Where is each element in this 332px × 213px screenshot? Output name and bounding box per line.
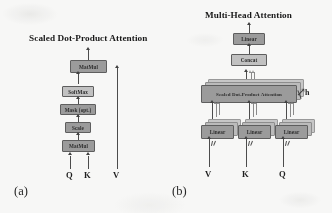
connector-v-arrowhead <box>115 65 119 68</box>
panel-b-output-arrowhead <box>247 22 251 25</box>
connector-linearv-head3-arrowhead <box>217 101 219 104</box>
connector-head3-arrowhead <box>252 70 254 73</box>
panel-b-title: Multi-Head Attention <box>205 10 292 20</box>
connector-linearv-head1 <box>212 103 213 119</box>
connector-linearq-head2 <box>290 103 291 117</box>
connector-linearv-head2 <box>216 103 217 117</box>
connector-k-input <box>88 156 89 169</box>
node-matmul-bottom: MatMul <box>62 140 95 152</box>
connector-linearv-head3 <box>219 103 220 115</box>
connector-linearq-head3-arrowhead <box>291 101 293 104</box>
connector-k-trunk <box>246 139 247 167</box>
connector-linearq-head1-arrowhead <box>284 100 288 103</box>
connector-head1-arrowhead <box>244 69 248 72</box>
connector-linearv-head1-arrowhead <box>210 100 214 103</box>
scan-artifact-overlay <box>0 0 332 213</box>
connector-lineark-head2 <box>253 103 254 117</box>
split-k-right <box>250 141 253 146</box>
heads-count-label: h <box>305 88 309 97</box>
connector-linearv-head2-arrowhead <box>214 101 216 104</box>
connector-scale-to-mask-arrowhead <box>76 114 80 117</box>
connector-lineark-head1-arrowhead <box>247 100 251 103</box>
connector-mask-to-softmax-arrowhead <box>76 96 80 99</box>
input-label-v: V <box>113 170 119 180</box>
connector-q-input <box>70 156 71 169</box>
figure-canvas: Scaled Dot-Product Attention MatMul Soft… <box>0 0 332 213</box>
connector-concat-to-linear-arrowhead <box>247 43 251 46</box>
connector-v-input <box>117 68 118 169</box>
split-v-right <box>213 141 216 146</box>
connector-q-arrowhead <box>68 152 72 155</box>
connector-lineark-head3 <box>256 103 257 115</box>
input-label-q: Q <box>279 169 286 179</box>
connector-k-arrowhead <box>86 152 90 155</box>
connector-q-trunk-arrowhead <box>281 136 285 139</box>
connector-softmax-to-matmul-arrowhead <box>76 71 80 74</box>
input-label-q: Q <box>66 170 73 180</box>
panel-a-caption: (a) <box>14 184 28 199</box>
connector-v-trunk <box>209 139 210 167</box>
panel-a-output-arrowhead <box>86 47 90 50</box>
input-label-k: K <box>84 170 91 180</box>
split-q-right <box>287 141 290 146</box>
connector-matmul-to-scale-arrowhead <box>76 132 80 135</box>
connector-linearq-head1 <box>286 103 287 119</box>
connector-v-trunk-arrowhead <box>207 136 211 139</box>
connector-concat-to-linear <box>249 45 250 54</box>
connector-lineark-head3-arrowhead <box>254 101 256 104</box>
panel-a-output-line <box>88 50 89 60</box>
node-concat: Concat <box>231 54 267 66</box>
input-label-k: K <box>242 169 249 179</box>
connector-head2-arrowhead <box>249 70 251 73</box>
connector-lineark-head1 <box>249 103 250 119</box>
connector-linearq-head2-arrowhead <box>288 101 290 104</box>
connector-lineark-head2-arrowhead <box>251 101 253 104</box>
input-label-v: V <box>205 169 211 179</box>
panel-b-caption: (b) <box>172 184 187 199</box>
connector-k-trunk-arrowhead <box>244 136 248 139</box>
connector-linearq-head3 <box>293 103 294 115</box>
connector-q-trunk <box>283 139 284 167</box>
panel-a-title: Scaled Dot-Product Attention <box>29 33 148 43</box>
connector-softmax-to-matmul <box>78 73 79 84</box>
panel-b-output-line <box>249 25 250 33</box>
